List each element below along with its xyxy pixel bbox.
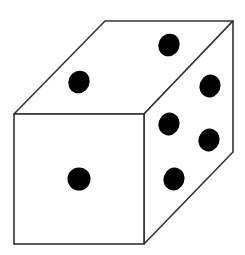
- dice-drawing: [0, 0, 245, 255]
- dice-diagram: [0, 0, 245, 255]
- pip-front-1: [68, 168, 91, 191]
